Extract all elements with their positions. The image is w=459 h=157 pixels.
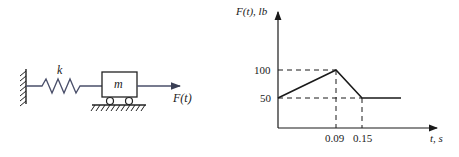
- y-axis-label-text: F(t), lb: [236, 5, 267, 17]
- spring-label: k: [57, 64, 62, 76]
- wheels: [107, 98, 133, 105]
- wheel-right: [126, 98, 133, 105]
- wheel-left: [107, 98, 114, 105]
- ground: [91, 105, 146, 111]
- y-axis-label: F(t), lb: [236, 6, 267, 17]
- x-axis-label: t, s: [430, 133, 443, 144]
- diagram-canvas: [0, 0, 459, 157]
- chart-axes: [278, 12, 437, 128]
- y-tick-100: 100: [254, 65, 271, 76]
- spring: [26, 79, 102, 93]
- reference-lines: [278, 70, 362, 128]
- force-curve: [278, 70, 401, 98]
- mass-label: m: [114, 78, 123, 90]
- fixed-wall: [20, 69, 26, 106]
- x-tick-015: 0.15: [353, 133, 372, 144]
- y-tick-50: 50: [260, 93, 271, 104]
- force-label: F(t): [173, 92, 192, 104]
- x-tick-009: 0.09: [325, 133, 344, 144]
